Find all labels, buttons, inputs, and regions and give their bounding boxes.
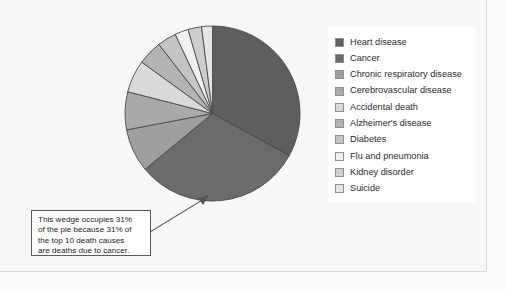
legend-item-label: Heart disease	[350, 38, 407, 47]
legend-item-accidental-death[interactable]: Accidental death	[335, 99, 470, 115]
legend-swatch-icon	[335, 87, 344, 96]
legend-swatch-icon	[335, 54, 344, 63]
pie-chart-svg	[124, 25, 301, 202]
callout-line: the top 10 death causes	[38, 236, 145, 246]
callout-line: of the pie because 31% of	[38, 225, 145, 235]
pie-chart	[124, 25, 301, 202]
legend-item-alzheimers-disease[interactable]: Alzheimer's disease	[335, 115, 470, 131]
legend-item-label: Kidney disorder	[350, 168, 414, 177]
legend-item-flu-and-pneumonia[interactable]: Flu and pneumonia	[335, 148, 470, 164]
chart-frame: Heart disease Cancer Chronic respiratory…	[0, 0, 487, 272]
legend-item-heart-disease[interactable]: Heart disease	[335, 34, 470, 50]
legend-swatch-icon	[335, 103, 344, 112]
legend-swatch-icon	[335, 168, 344, 177]
legend-item-label: Accidental death	[350, 103, 418, 112]
legend-item-cerebrovascular-disease[interactable]: Cerebrovascular disease	[335, 83, 470, 99]
legend-swatch-icon	[335, 38, 344, 47]
chart-screenshot: Heart disease Cancer Chronic respiratory…	[0, 0, 506, 291]
legend-item-label: Cancer	[350, 54, 380, 63]
callout-annotation: This wedge occupies 31% of the pie becau…	[31, 210, 151, 256]
legend-item-label: Flu and pneumonia	[350, 152, 429, 161]
legend-item-label: Diabetes	[350, 135, 386, 144]
legend-item-diabetes[interactable]: Diabetes	[335, 132, 470, 148]
legend-item-label: Cerebrovascular disease	[350, 86, 452, 95]
legend-swatch-icon	[335, 152, 344, 161]
legend-swatch-icon	[335, 184, 344, 193]
legend-swatch-icon	[335, 135, 344, 144]
callout-line: are deaths due to cancer.	[38, 246, 145, 256]
pie-slice-group	[125, 26, 300, 201]
legend-item-cancer[interactable]: Cancer	[335, 50, 470, 66]
legend-swatch-icon	[335, 119, 344, 128]
chart-legend: Heart disease Cancer Chronic respiratory…	[328, 27, 476, 203]
legend-item-suicide[interactable]: Suicide	[335, 181, 470, 197]
legend-item-kidney-disorder[interactable]: Kidney disorder	[335, 164, 470, 180]
legend-item-label: Chronic respiratory disease	[350, 70, 462, 79]
legend-item-chronic-respiratory-disease[interactable]: Chronic respiratory disease	[335, 67, 470, 83]
callout-line: This wedge occupies 31%	[38, 215, 145, 225]
legend-item-label: Suicide	[350, 184, 380, 193]
legend-item-label: Alzheimer's disease	[350, 119, 431, 128]
legend-swatch-icon	[335, 70, 344, 79]
